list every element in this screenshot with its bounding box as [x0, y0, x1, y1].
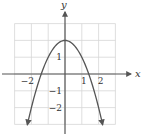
x-tick-label: 1 [81, 76, 87, 86]
parabola-graph: x y −2121−1−2 [0, 0, 145, 137]
y-tick-label: −2 [49, 103, 62, 113]
y-tick-label: 1 [56, 52, 62, 62]
axes: x y [2, 0, 141, 134]
y-axis-label: y [60, 0, 67, 10]
x-tick-label: −2 [21, 76, 34, 86]
x-axis-label: x [135, 68, 141, 79]
y-tick-label: −1 [49, 86, 62, 96]
x-tick-label: 2 [98, 76, 104, 86]
